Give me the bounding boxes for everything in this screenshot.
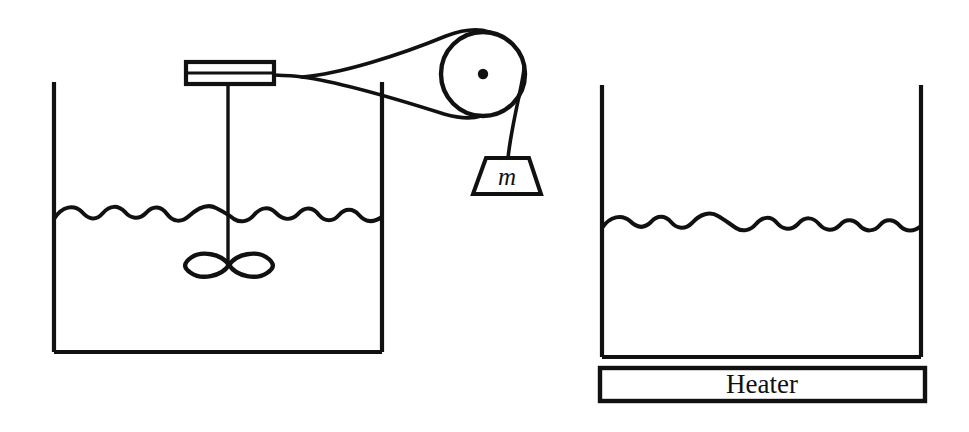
- hanging-mass-label: m: [498, 163, 516, 190]
- pulley-axle-hub: [478, 69, 488, 79]
- heater-label: Heater: [726, 369, 798, 399]
- stirrer-assembly-group: [185, 62, 274, 277]
- left-container-water-surface: [54, 206, 382, 221]
- right-container-group: Heater: [600, 85, 925, 401]
- left-container-group: [54, 82, 382, 352]
- apparatus-illustration: m Heater: [0, 0, 969, 432]
- cord-pulley-weight-group: m: [274, 30, 541, 194]
- right-container-water-surface: [602, 214, 921, 231]
- physics-diagram-canvas: m Heater: [0, 0, 969, 432]
